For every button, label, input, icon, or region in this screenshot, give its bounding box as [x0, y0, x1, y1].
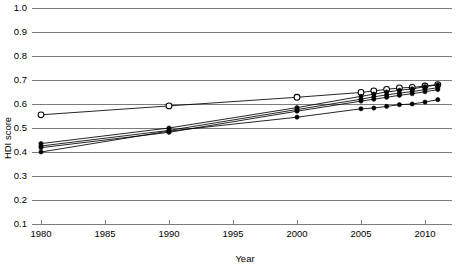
y-tick-label: 0.7 — [14, 74, 27, 85]
series-line-series-open-upper — [41, 85, 438, 115]
y-tick-label: 0.3 — [14, 170, 27, 181]
x-tick-label: 2010 — [414, 228, 435, 239]
marker-filled-circle — [295, 115, 299, 119]
marker-filled-circle — [423, 90, 427, 94]
marker-open-circle — [38, 112, 44, 118]
marker-filled-circle — [359, 107, 363, 111]
marker-filled-circle — [39, 146, 43, 150]
marker-filled-circle — [385, 95, 389, 99]
marker-filled-circle — [385, 104, 389, 108]
data-point-markers — [38, 82, 441, 154]
y-tick-label: 0.6 — [14, 98, 27, 109]
marker-filled-circle — [410, 92, 414, 96]
y-tick-label: 0.5 — [14, 122, 27, 133]
series-line-series-filled-lower — [41, 100, 438, 152]
hdi-score-line-chart: 0.10.20.30.40.50.60.70.80.91.0 198019851… — [0, 0, 460, 266]
y-tick-label: 0.2 — [14, 194, 27, 205]
x-axis-title: Year — [235, 253, 254, 264]
y-axis-title: HDI score — [2, 117, 13, 159]
x-axis-tickmarks — [41, 220, 425, 224]
data-series-lines — [41, 85, 438, 152]
marker-open-circle — [166, 103, 172, 109]
marker-filled-circle — [397, 93, 401, 97]
x-tick-label: 1990 — [158, 228, 179, 239]
marker-filled-circle — [39, 150, 43, 154]
marker-filled-circle — [295, 109, 299, 113]
x-tick-label: 1980 — [30, 228, 51, 239]
marker-filled-circle — [372, 106, 376, 110]
marker-filled-circle — [397, 103, 401, 107]
x-tick-label: 1985 — [94, 228, 115, 239]
x-axis-tick-labels: 1980198519901995200020052010 — [30, 228, 435, 239]
marker-filled-circle — [423, 100, 427, 104]
marker-filled-circle — [372, 97, 376, 101]
y-tick-label: 1.0 — [14, 2, 27, 13]
y-tick-label: 0.8 — [14, 50, 27, 61]
marker-filled-circle — [410, 102, 414, 106]
x-tick-label: 2005 — [350, 228, 371, 239]
chart-plot-area: 0.10.20.30.40.50.60.70.80.91.0 198019851… — [0, 0, 460, 266]
y-tick-label: 0.4 — [14, 146, 27, 157]
y-tick-label: 0.9 — [14, 26, 27, 37]
marker-open-circle — [294, 94, 300, 100]
marker-filled-circle — [436, 88, 440, 92]
x-tick-label: 2000 — [286, 228, 307, 239]
y-tick-label: 0.1 — [14, 218, 27, 229]
marker-filled-circle — [359, 99, 363, 103]
x-tick-label: 1995 — [222, 228, 243, 239]
y-axis-tick-labels: 0.10.20.30.40.50.60.70.80.91.0 — [14, 2, 27, 229]
series-line-series-filled-a — [41, 85, 438, 144]
marker-filled-circle — [436, 98, 440, 102]
marker-filled-circle — [167, 129, 171, 133]
